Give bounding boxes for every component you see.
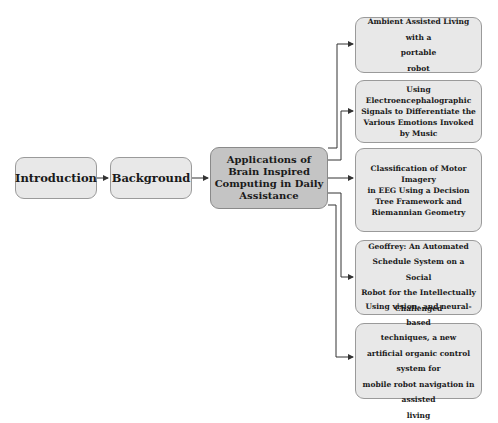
background-box: Background [110, 157, 192, 199]
intro-box: Introduction [15, 157, 97, 199]
center-line: Brain Inspired [215, 166, 324, 178]
center-topic-label: Applications of Brain Inspired Computing… [215, 154, 324, 202]
branch-box-2: Using Electroencephalographic Signals to… [355, 80, 482, 143]
branch-label-5: Using vision- and neural-based technique… [356, 299, 481, 423]
center-topic-box: Applications of Brain Inspired Computing… [210, 147, 328, 209]
center-line: Computing in Daily [215, 178, 324, 190]
branch-label-3: Classification of Motor Imagery in EEG U… [364, 163, 474, 218]
branch-box-5: Using vision- and neural-based technique… [355, 323, 482, 399]
center-line: Assistance [215, 190, 324, 202]
center-line: Applications of [215, 154, 324, 166]
branch-box-3: Classification of Motor Imagery in EEG U… [355, 148, 482, 232]
branch-label-2: Using Electroencephalographic Signals to… [357, 84, 480, 139]
arrow-to-branch-4 [328, 193, 353, 277]
intro-label: Introduction [15, 171, 97, 185]
branch-label-1: Ambient Assisted Living with a portable … [356, 14, 481, 76]
arrow-to-branch-2 [328, 111, 353, 160]
branch-box-1: Ambient Assisted Living with a portable … [355, 17, 482, 73]
background-label: Background [112, 171, 191, 185]
